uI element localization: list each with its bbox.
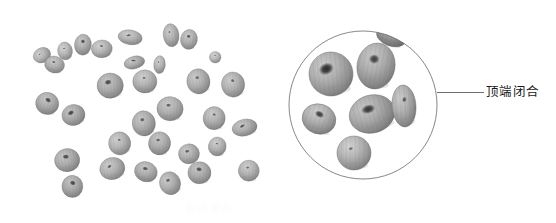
magnified-inset bbox=[288, 30, 438, 180]
specimen-photo bbox=[22, 14, 274, 216]
watermark-text: 标本图片 bbox=[186, 200, 234, 215]
apex-closed-label: 顶端闭合 bbox=[486, 84, 540, 100]
seed bbox=[209, 51, 221, 63]
annotation-leader-line bbox=[437, 92, 484, 93]
seed bbox=[337, 136, 371, 170]
figure-plate: 顶端闭合 标本图片 bbox=[0, 0, 556, 223]
magnified-inset-canvas bbox=[288, 30, 438, 180]
specimen-photo-canvas bbox=[22, 14, 274, 216]
